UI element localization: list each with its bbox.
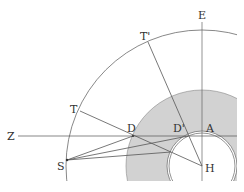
point-S: [66, 159, 68, 161]
label-S: S: [57, 160, 65, 173]
label-D-prime: D': [173, 122, 185, 135]
label-E: E: [198, 9, 206, 22]
label-Z: Z: [7, 130, 15, 143]
label-A: A: [205, 122, 215, 135]
geometry-diagram: E T' T Z D D' A S H: [0, 0, 244, 192]
label-D: D: [127, 122, 136, 135]
label-T-prime: T': [140, 30, 150, 43]
label-H: H: [205, 162, 215, 175]
line-S-D: [67, 136, 133, 160]
label-T: T: [70, 103, 78, 116]
point-D: [132, 135, 134, 137]
